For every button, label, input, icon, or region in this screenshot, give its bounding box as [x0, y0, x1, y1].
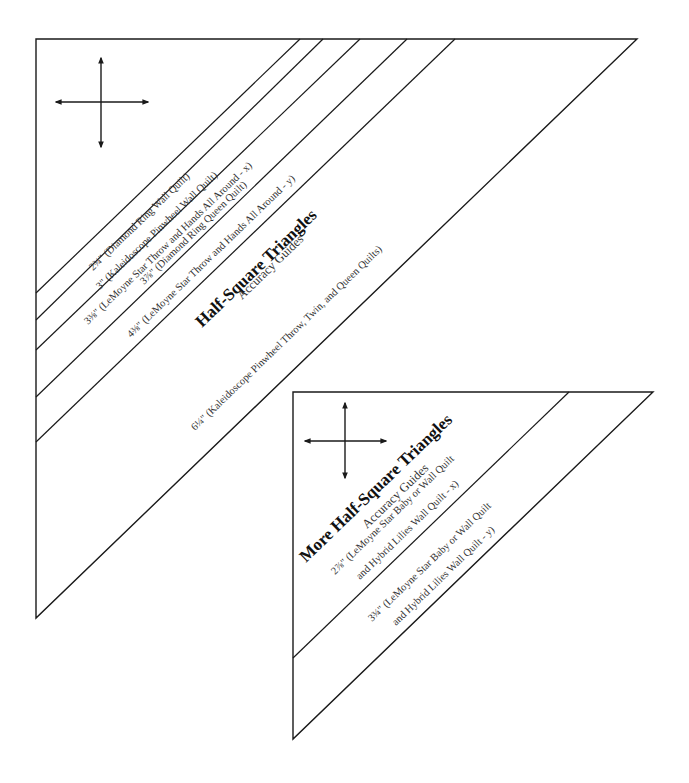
four-way-arrow-icon — [56, 58, 148, 147]
guide-line-3-7-8 — [36, 39, 407, 397]
guide-label-2-3-4: 2¾" (Diamond Ring Wall Quilt) — [87, 170, 193, 273]
template-title: Half-Square Triangles — [192, 205, 321, 331]
template-more-half-square-triangles: More Half-Square Triangles Accuracy Guid… — [293, 392, 653, 739]
template-2-title: More Half-Square Triangles — [296, 410, 457, 566]
four-way-arrow-icon-2 — [305, 403, 386, 478]
guide-label-6-1-4: 6¼" (Kaleidoscope Pinwheel Throw, Twin, … — [189, 243, 385, 433]
quilt-templates-canvas: 2¾" (Diamond Ring Wall Quilt) 3" (Kaleid… — [0, 0, 689, 783]
